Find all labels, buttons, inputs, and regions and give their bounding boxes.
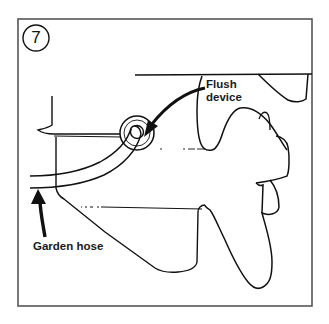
propeller-blade-right (256, 136, 289, 183)
gearcase-leading-edge (38, 96, 124, 134)
flush-device-label-line2: device (206, 91, 242, 104)
flush-device-label: Flush device (206, 78, 242, 104)
garden-hose-leader-line (40, 200, 45, 237)
illustration-panel: 7 Flush device Garden hose (0, 0, 329, 324)
garden-hose-arrowhead-icon (31, 189, 46, 204)
propeller-blade-top (258, 74, 308, 102)
cavitation-plate-line (135, 74, 312, 75)
garden-hose-label: Garden hose (33, 240, 103, 253)
frame-border (18, 19, 312, 306)
gearcase-lower-line (54, 136, 122, 137)
step-number: 7 (23, 25, 49, 51)
outboard-flush-diagram (0, 0, 329, 324)
hub-dashes (81, 207, 202, 209)
flush-device-label-line1: Flush (206, 78, 242, 91)
propeller-blade-lower-right (205, 180, 279, 288)
propeller-blade-notch (256, 183, 263, 213)
